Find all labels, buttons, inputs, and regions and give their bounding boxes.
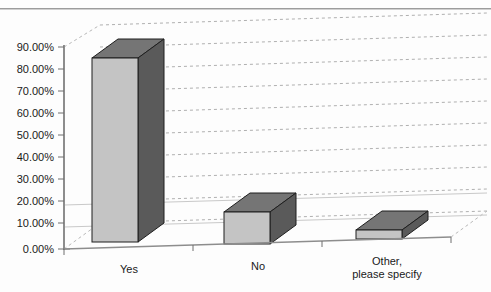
y-tick-label-40: 40.00% (17, 151, 55, 163)
x-tick-label-yes: Yes (120, 263, 138, 275)
y-tick-label-70: 70.00% (17, 85, 55, 97)
x-tick-label-other-line1: Other, (372, 255, 402, 267)
y-tick-label-60: 60.00% (17, 107, 55, 119)
depth-connector-top (64, 25, 100, 47)
x-tick-label-other-line2: please specify (352, 268, 422, 280)
bar-yes-side (138, 39, 164, 242)
x-tick-label-no: No (251, 260, 265, 272)
y-axis (58, 45, 70, 250)
bar-yes[interactable] (92, 39, 164, 242)
y-tick-label-0: 0.00% (23, 243, 54, 255)
y-tick-label-10: 10.00% (17, 217, 55, 229)
bar-yes-front (92, 58, 138, 242)
gridline-90 (100, 13, 487, 25)
bar-no-front (224, 212, 270, 244)
y-tick-label-20: 20.00% (17, 195, 55, 207)
y-tick-label-30: 30.00% (17, 173, 55, 185)
bar-other-front (356, 230, 402, 239)
y-tick-label-50: 50.00% (17, 129, 55, 141)
x-tick-labels: Yes No Other, please specify (120, 255, 422, 280)
y-tick-label-90: 90.00% (17, 41, 55, 53)
y-tick-label-80: 80.00% (17, 63, 55, 75)
y-tick-labels: 90.00% 80.00% 70.00% 60.00% 50.00% 40.00… (17, 41, 55, 255)
bar-chart-canvas: 90.00% 80.00% 70.00% 60.00% 50.00% 40.00… (0, 0, 491, 292)
chart-figure: 90.00% 80.00% 70.00% 60.00% 50.00% 40.00… (0, 0, 491, 292)
